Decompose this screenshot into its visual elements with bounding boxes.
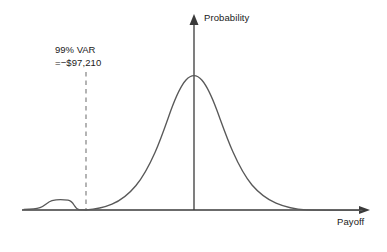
secondary-bump-curve: [24, 200, 86, 210]
chart-canvas: [0, 0, 387, 252]
var-annotation-line-2: =−$97,210: [55, 57, 101, 70]
x-axis-label: Payoff: [337, 216, 364, 227]
payoff-distribution-chart: Probability Payoff 99% VAR =−$97,210: [0, 0, 387, 252]
y-axis-arrowhead: [190, 14, 199, 25]
var-annotation-line-1: 99% VAR: [55, 44, 101, 57]
main-distribution-curve: [86, 76, 362, 211]
y-axis-label: Probability: [204, 12, 249, 23]
var-annotation: 99% VAR =−$97,210: [55, 44, 101, 69]
